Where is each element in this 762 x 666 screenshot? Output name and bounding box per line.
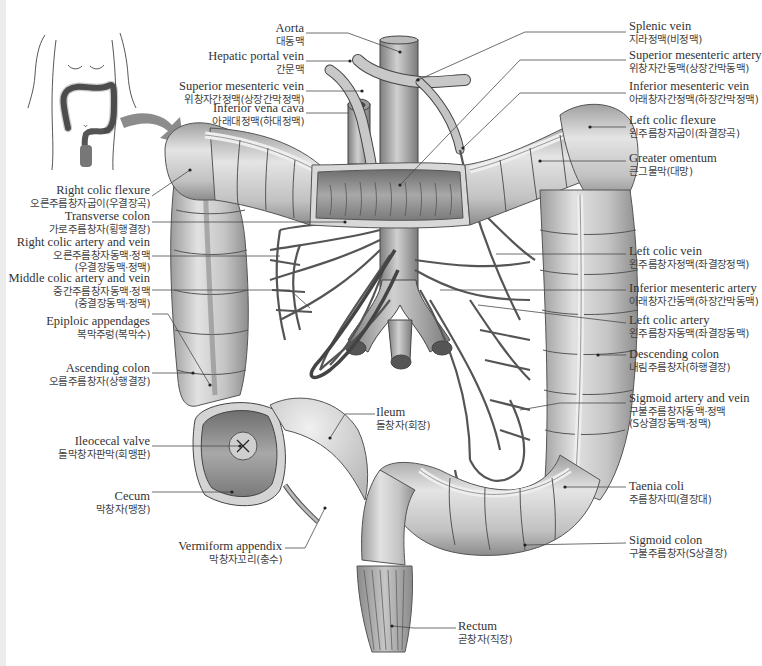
label-rectum: Rectum 곧창자(직장)	[458, 620, 512, 645]
label-ko: 중간주름창자동맥·정맥	[8, 286, 150, 297]
label-sigmoid-artery-vein: Sigmoid artery and vein 구불주름창자동맥·정맥 (S상결…	[629, 392, 749, 429]
label-superior-mesenteric-artery: Superior mesenteric artery 위창자간동맥(상장간막동맥…	[629, 49, 762, 74]
label-ko: 복막주렁(복막수)	[46, 329, 150, 340]
label-en: Inferior vena cava	[212, 102, 304, 115]
label-inferior-vena-cava: Inferior vena cava 아래대정맥(하대정맥)	[212, 102, 304, 127]
label-ko: 내림주름창자(하행결장)	[629, 362, 730, 373]
label-ko: 아래창자간정맥(하장간막정맥)	[629, 94, 758, 105]
label-middle-colic-artery-vein: Middle colic artery and vein 중간주름창자동맥·정맥…	[8, 272, 150, 309]
label-en: Ascending colon	[49, 362, 150, 375]
label-ko: 곧창자(직장)	[458, 634, 512, 645]
label-en: Sigmoid colon	[629, 534, 727, 547]
label-ko-alt: (S상결장동맥·정맥)	[629, 418, 749, 429]
label-vermiform-appendix: Vermiform appendix 막창자꼬리(충수)	[178, 540, 282, 565]
label-en: Superior mesenteric vein	[179, 80, 304, 93]
label-en: Right colic artery and vein	[17, 236, 150, 249]
label-ko: 지라정맥(비정맥)	[629, 34, 702, 45]
label-ko: 오름주름창자(상행결장)	[49, 376, 150, 387]
label-ko: 돌창자(회장)	[376, 420, 430, 431]
label-en: Left colic flexure	[629, 114, 739, 127]
label-ko: 위창자간동맥(상장간막동맥)	[629, 63, 762, 74]
sigmoid-colon-shape	[362, 455, 600, 565]
label-en: Inferior mesenteric vein	[629, 80, 758, 93]
label-ileocecal-valve: Ileocecal valve 돌막창자판막(회맹판)	[58, 435, 150, 460]
label-taenia-coli: Taenia coli 주름창자띠(결장대)	[629, 480, 711, 505]
label-ko: 막창자(맹장)	[96, 504, 150, 515]
label-left-colic-artery: Left colic artery 왼주름창자동맥(좌결장동맥)	[629, 314, 749, 339]
label-en: Descending colon	[629, 348, 730, 361]
label-en: Taenia coli	[629, 480, 711, 493]
descending-colon-shape	[540, 190, 638, 500]
label-ko: 아래창자간동맥(하장간막동맥)	[629, 296, 758, 307]
label-descending-colon: Descending colon 내림주름창자(하행결장)	[629, 348, 730, 373]
label-ko: 구불주름창자동맥·정맥	[629, 406, 749, 417]
label-inferior-mesenteric-artery: Inferior mesenteric artery 아래창자간동맥(하장간막동…	[629, 282, 758, 307]
label-hepatic-portal-vein: Hepatic portal vein 간문맥	[208, 50, 304, 75]
label-en: Right colic flexure	[30, 184, 150, 197]
label-epiploic-appendages: Epiploic appendages 복막주렁(복막수)	[46, 315, 150, 340]
label-en: Ileocecal valve	[58, 435, 150, 448]
label-en: Inferior mesenteric artery	[629, 282, 758, 295]
label-en: Aorta	[276, 22, 304, 35]
label-ko: 간문맥	[208, 64, 304, 75]
iliac-vessels	[346, 280, 452, 369]
label-aorta: Aorta 대동맥	[276, 22, 304, 47]
label-en: Epiploic appendages	[46, 315, 150, 328]
label-en: Greater omentum	[629, 152, 717, 165]
label-en: Cecum	[96, 490, 150, 503]
label-splenic-vein: Splenic vein 지라정맥(비정맥)	[629, 20, 702, 45]
label-en: Left colic vein	[629, 245, 749, 258]
label-ko: 큰그물막(대망)	[629, 166, 717, 177]
label-en: Vermiform appendix	[178, 540, 282, 553]
label-ko: 왼주름창자굽이(좌결장곡)	[629, 128, 739, 139]
label-ileum: Ileum 돌창자(회장)	[376, 406, 430, 431]
label-greater-omentum: Greater omentum 큰그물막(대망)	[629, 152, 717, 177]
label-right-colic-flexure: Right colic flexure 오른주름창자굽이(우결장곡)	[30, 184, 150, 209]
label-en: Rectum	[458, 620, 512, 633]
label-ko: 왼주름창자동맥(좌결장동맥)	[629, 328, 749, 339]
label-ko: 가로주름창자(횡행결장)	[49, 224, 150, 235]
label-left-colic-flexure: Left colic flexure 왼주름창자굽이(좌결장곡)	[629, 114, 739, 139]
label-left-colic-vein: Left colic vein 왼주름창자정맥(좌결장정맥)	[629, 245, 749, 270]
inset-colon	[64, 85, 115, 155]
label-en: Splenic vein	[629, 20, 702, 33]
label-ko: 구불주름창자(S상결장)	[629, 548, 727, 559]
label-en: Ileum	[376, 406, 430, 419]
label-en: Transverse colon	[49, 210, 150, 223]
label-ko: 아래대정맥(하대정맥)	[212, 116, 304, 127]
label-right-colic-artery-vein: Right colic artery and vein 오른주름창자동맥·정맥 …	[17, 236, 150, 273]
inset-rectum	[80, 145, 92, 167]
label-ko: 대동맥	[276, 36, 304, 47]
label-en: Middle colic artery and vein	[8, 272, 150, 285]
label-ko-alt: (중결장동맥·정맥)	[8, 298, 150, 309]
label-ko: 오른주름창자동맥·정맥	[17, 250, 150, 261]
label-ascending-colon: Ascending colon 오름주름창자(상행결장)	[49, 362, 150, 387]
ascending-colon-shape	[171, 175, 249, 406]
label-en: Left colic artery	[629, 314, 749, 327]
label-sigmoid-colon: Sigmoid colon 구불주름창자(S상결장)	[629, 534, 727, 559]
label-ko: 주름창자띠(결장대)	[629, 494, 711, 505]
label-transverse-colon: Transverse colon 가로주름창자(횡행결장)	[49, 210, 150, 235]
label-cecum: Cecum 막창자(맹장)	[96, 490, 150, 515]
rectum-shape	[357, 566, 413, 652]
label-ko: 오른주름창자굽이(우결장곡)	[30, 198, 150, 209]
label-en: Sigmoid artery and vein	[629, 392, 749, 405]
label-inferior-mesenteric-vein: Inferior mesenteric vein 아래창자간정맥(하장간막정맥)	[629, 80, 758, 105]
label-ko: 왼주름창자정맥(좌결장정맥)	[629, 259, 749, 270]
label-en: Superior mesenteric artery	[629, 49, 762, 62]
label-ko: 막창자꼬리(충수)	[178, 554, 282, 565]
label-ko: 돌막창자판막(회맹판)	[58, 449, 150, 460]
label-en: Hepatic portal vein	[208, 50, 304, 63]
